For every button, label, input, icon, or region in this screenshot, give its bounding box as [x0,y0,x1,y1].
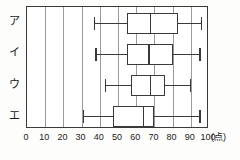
median-line [150,13,151,34]
x-axis-unit-label: (点) [211,133,226,143]
whisker-cap-max [190,79,191,92]
boxplot-series-ア [27,11,207,37]
whisker-cap-min [105,79,106,92]
category-label-a: ア [4,16,24,27]
median-line [148,44,149,65]
whisker-cap-max [201,17,202,30]
whisker-cap-min [83,110,84,123]
plot-frame [26,6,208,128]
category-label-e: エ [4,110,24,121]
box-iqr [113,106,155,127]
boxplot-series-ウ [27,73,207,99]
whisker-cap-max [199,48,200,61]
median-line [150,75,151,96]
boxplot-screenshot: ア イ ウ エ 0102030405060708090100 (点) [0,0,240,160]
median-line [143,106,144,127]
boxplot-series-エ [27,104,207,130]
box-iqr [127,44,173,65]
category-label-i: イ [4,47,24,58]
category-label-u: ウ [4,79,24,90]
whisker-cap-min [95,48,96,61]
whisker-cap-min [94,17,95,30]
whisker-cap-max [199,110,200,123]
boxplot-series-イ [27,42,207,68]
box-iqr [127,13,178,34]
box-iqr [131,75,166,96]
